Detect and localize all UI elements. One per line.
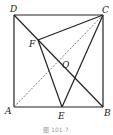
geometry-figure: D C F O A E B 图 101-7 [0, 0, 113, 135]
figure-caption: 图 101-7 [43, 126, 69, 134]
label-a: A [4, 106, 12, 116]
label-e: E [57, 111, 65, 121]
label-c: C [102, 5, 109, 15]
label-f: F [28, 39, 36, 49]
label-d: D [9, 4, 17, 14]
label-b: B [103, 108, 111, 118]
label-o: O [62, 60, 70, 70]
segment-fe [38, 40, 62, 107]
